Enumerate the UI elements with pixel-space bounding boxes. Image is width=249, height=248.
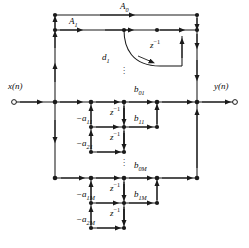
gain-b1M-label: b1M	[134, 190, 147, 201]
gain-a21-label: −a21	[76, 139, 93, 150]
delay-label-section1-1: z−1	[110, 106, 120, 117]
delay-label-feedback-top: z−1	[150, 39, 160, 50]
vertical-dots-sections: ...	[119, 156, 129, 165]
output-terminal	[233, 100, 238, 105]
delay-label-sectionM-2: z−1	[110, 207, 120, 218]
gain-b11-label: b11	[134, 114, 144, 125]
output-label: y(n)	[214, 82, 229, 91]
gain-a11-label: −a11	[76, 114, 92, 125]
gain-a1-label: A1	[69, 17, 78, 28]
delay-label-sectionM-1: z−1	[110, 182, 120, 193]
input-terminal	[12, 100, 17, 105]
gain-b01-label: b01	[134, 85, 145, 96]
input-label: x(n)	[8, 82, 23, 91]
gain-d1-label: d1	[102, 53, 110, 64]
signal-flow-diagram	[0, 0, 249, 248]
vertical-dots-feedback: ...	[119, 64, 129, 73]
arrow-d1	[138, 56, 152, 62]
gain-a1M-label: −a1M	[76, 190, 95, 201]
gain-a0-label: A0	[120, 2, 129, 13]
gain-a2M-label: −a2M	[76, 215, 95, 226]
delay-label-section1-2: z−1	[110, 131, 120, 142]
gain-b0M-label: b0M	[134, 161, 147, 172]
figure-canvas: x(n) y(n) A0 A1 d1 b01 b11 b0M b1M −a11 …	[0, 0, 249, 248]
